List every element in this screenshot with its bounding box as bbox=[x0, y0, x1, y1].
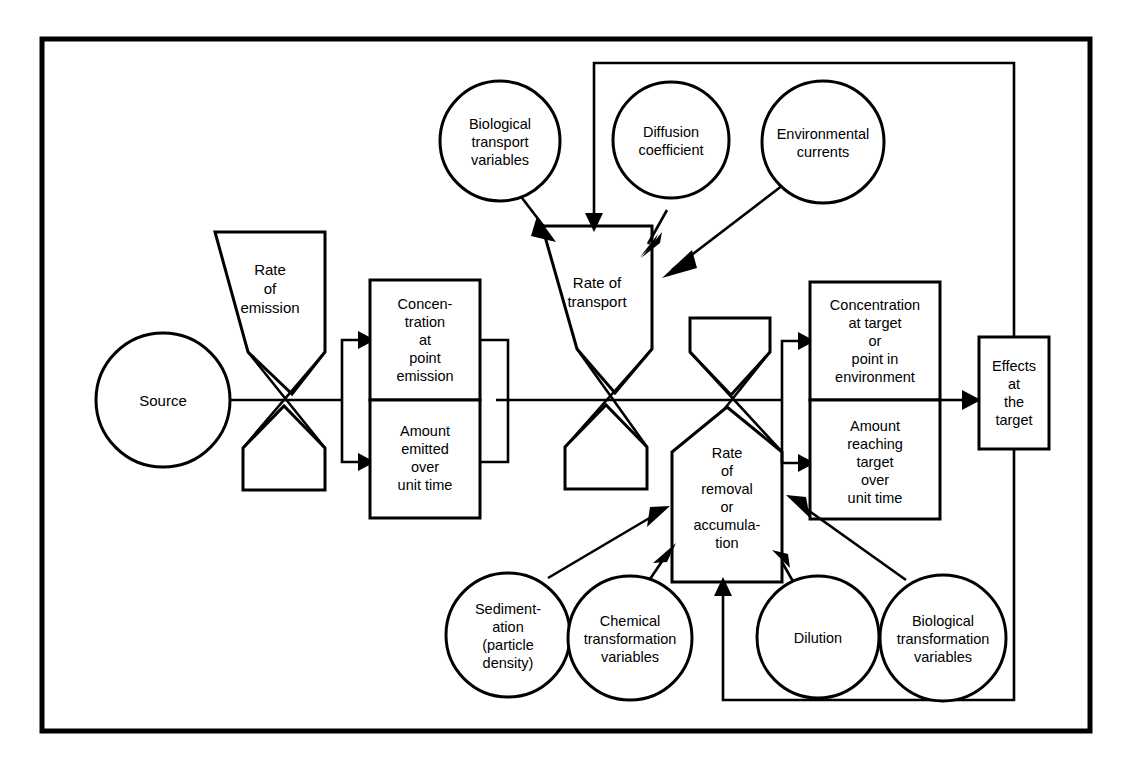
circle-biological-transformation bbox=[880, 575, 1006, 701]
bowtie-emission-lower bbox=[243, 406, 325, 490]
circle-diffusion-coefficient bbox=[613, 82, 729, 198]
box-concentration-target bbox=[810, 282, 940, 400]
box-concentration-point bbox=[370, 280, 480, 400]
bowtie-removal-upper bbox=[690, 318, 770, 395]
edge-sedimentation-to-removal bbox=[548, 513, 658, 578]
flow-diagram: Source Rate of emission Concen- tration … bbox=[0, 0, 1136, 771]
arrowhead-sedimentation bbox=[647, 506, 670, 527]
circle-dilution bbox=[757, 576, 879, 698]
arrowhead-currents bbox=[662, 250, 697, 278]
splitter-emission-bracket bbox=[342, 340, 361, 462]
circle-sedimentation bbox=[446, 573, 570, 697]
box-amount-emitted bbox=[370, 400, 480, 518]
box-effects-at-target bbox=[979, 337, 1049, 449]
arrowhead-biological-transformation bbox=[786, 495, 810, 518]
splitter-target-bracket bbox=[782, 341, 801, 463]
box-amount-reaching bbox=[810, 400, 940, 519]
circle-environmental-currents bbox=[762, 81, 884, 203]
diagram-canvas bbox=[0, 0, 1136, 771]
bowtie-transport-lower bbox=[565, 405, 647, 489]
circle-biological-transport bbox=[440, 81, 560, 201]
circle-source bbox=[96, 333, 230, 467]
circle-chemical-transformation bbox=[568, 576, 692, 700]
